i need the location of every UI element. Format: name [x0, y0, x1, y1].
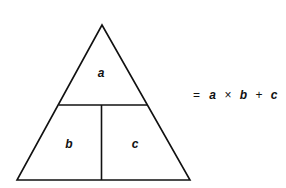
formula-term-a: a [209, 88, 216, 102]
formula-triangle-diagram: a b c = a × b + c [0, 0, 286, 188]
formula-term-b: b [240, 88, 247, 102]
formula-text: = a × b + c [193, 88, 278, 102]
formula-plus: + [255, 88, 262, 102]
label-top-a: a [98, 66, 105, 80]
formula-equals: = [193, 88, 200, 102]
formula-term-c: c [271, 88, 278, 102]
triangle-outline [17, 25, 190, 180]
label-bottom-left-b: b [65, 137, 72, 151]
label-bottom-right-c: c [132, 137, 139, 151]
formula-times: × [224, 88, 231, 102]
